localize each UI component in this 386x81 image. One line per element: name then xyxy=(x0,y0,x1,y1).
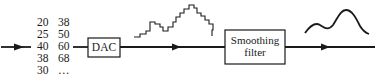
arrowhead-icon xyxy=(172,44,181,51)
sample-value: 20 xyxy=(37,17,49,29)
sample-value: 68 xyxy=(58,53,70,65)
sample-value: 38 xyxy=(37,53,49,65)
input-arrow xyxy=(1,44,31,51)
sample-value: … xyxy=(58,65,70,77)
smooth-waveform xyxy=(305,10,369,34)
sample-value: 50 xyxy=(58,29,70,41)
sample-value: 25 xyxy=(37,29,49,41)
smoothing-filter-label: Smoothing filter xyxy=(225,34,285,58)
dac-signal-flow-diagram: 20 25 40 38 30 38 50 60 68 … DAC Smoothi… xyxy=(0,0,386,81)
smoothing-filter-label-line-1: Smoothing xyxy=(225,34,285,46)
sample-value: 30 xyxy=(37,65,49,77)
staircase-waveform xyxy=(134,5,213,37)
arrowhead-icon xyxy=(321,44,330,51)
dac-block-label: DAC xyxy=(88,41,120,54)
arrowhead-icon xyxy=(14,44,24,51)
sample-value: 38 xyxy=(58,17,70,29)
sample-value: 40 xyxy=(37,41,49,53)
smoothing-filter-label-line-2: filter xyxy=(225,46,285,58)
dac-to-filter-arrow xyxy=(120,44,225,51)
output-arrow xyxy=(285,44,375,51)
sample-value: 60 xyxy=(58,41,70,53)
